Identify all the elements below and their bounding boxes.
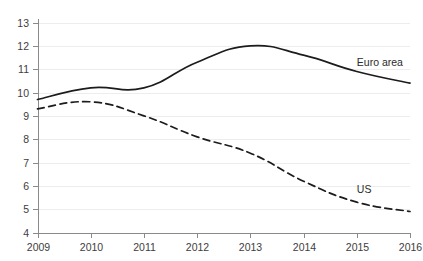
- x-tick-label: 2012: [186, 241, 210, 253]
- y-axis-ticks: 45678910111213: [17, 17, 37, 239]
- chart-canvas: 45678910111213 2009201020112012201320142…: [0, 0, 423, 261]
- series-label-euro-area: Euro area: [357, 56, 403, 68]
- x-tick-label: 2010: [80, 241, 104, 253]
- series-label-us: US: [357, 183, 372, 195]
- series-line-euro-area: [38, 46, 411, 100]
- x-axis-ticks: 20092010201120122013201420152016: [27, 233, 423, 253]
- x-tick-label: 2011: [133, 241, 156, 253]
- y-tick-label: 8: [23, 133, 29, 145]
- series-line-us: [38, 102, 411, 212]
- y-tick-label: 10: [17, 87, 29, 99]
- x-tick-label: 2014: [293, 241, 317, 253]
- y-tick-label: 12: [17, 40, 29, 52]
- y-tick-label: 5: [23, 203, 29, 215]
- x-tick-label: 2016: [399, 241, 423, 253]
- y-tick-label: 6: [23, 180, 29, 192]
- x-tick-label: 2015: [346, 241, 370, 253]
- x-tick-label: 2013: [239, 241, 263, 253]
- x-tick-label: 2009: [27, 241, 51, 253]
- y-tick-label: 11: [18, 63, 29, 75]
- y-tick-label: 13: [17, 17, 29, 29]
- y-tick-label: 7: [23, 157, 29, 169]
- y-tick-label: 9: [23, 110, 29, 122]
- y-tick-label: 4: [23, 227, 29, 239]
- line-chart: 45678910111213 2009201020112012201320142…: [0, 0, 423, 261]
